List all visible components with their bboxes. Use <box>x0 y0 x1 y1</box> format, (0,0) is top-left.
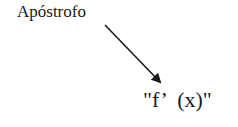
derivative-formula: "f’ (x)" <box>143 87 212 113</box>
